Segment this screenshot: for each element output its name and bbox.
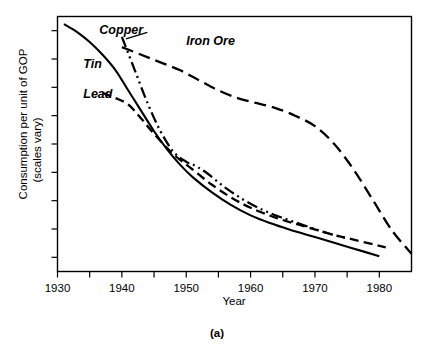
x-axis-tick-label: 1950 <box>173 282 199 294</box>
series-line-tin <box>64 24 379 256</box>
figure-caption: (a) <box>210 327 224 339</box>
y-axis-ticks <box>52 31 58 258</box>
x-axis-title: Year <box>222 295 245 307</box>
x-axis-tick-label: 1930 <box>45 282 71 294</box>
series-label-tin: Tin <box>83 57 102 71</box>
x-axis-tick-label: 1960 <box>238 282 264 294</box>
series-label-copper: Copper <box>99 23 144 37</box>
y-axis-title-line2: (scales vary) <box>31 117 43 182</box>
figure-container: 193019401950196019701980 CopperTinLeadIr… <box>0 0 435 346</box>
line-chart: 193019401950196019701980 CopperTinLeadIr… <box>0 0 435 346</box>
x-axis-tick-label: 1970 <box>302 282 328 294</box>
x-axis-tick-labels: 193019401950196019701980 <box>45 282 392 294</box>
y-axis-title: Consumption per unit of GOP <box>17 48 29 199</box>
series-label-lead: Lead <box>83 87 113 101</box>
series-label-iron-ore: Iron Ore <box>186 34 235 48</box>
x-axis-ticks <box>58 272 380 278</box>
series-group <box>64 24 412 256</box>
plot-frame <box>58 17 412 272</box>
x-axis-tick-label: 1980 <box>367 282 393 294</box>
x-axis-tick-label: 1940 <box>109 282 135 294</box>
